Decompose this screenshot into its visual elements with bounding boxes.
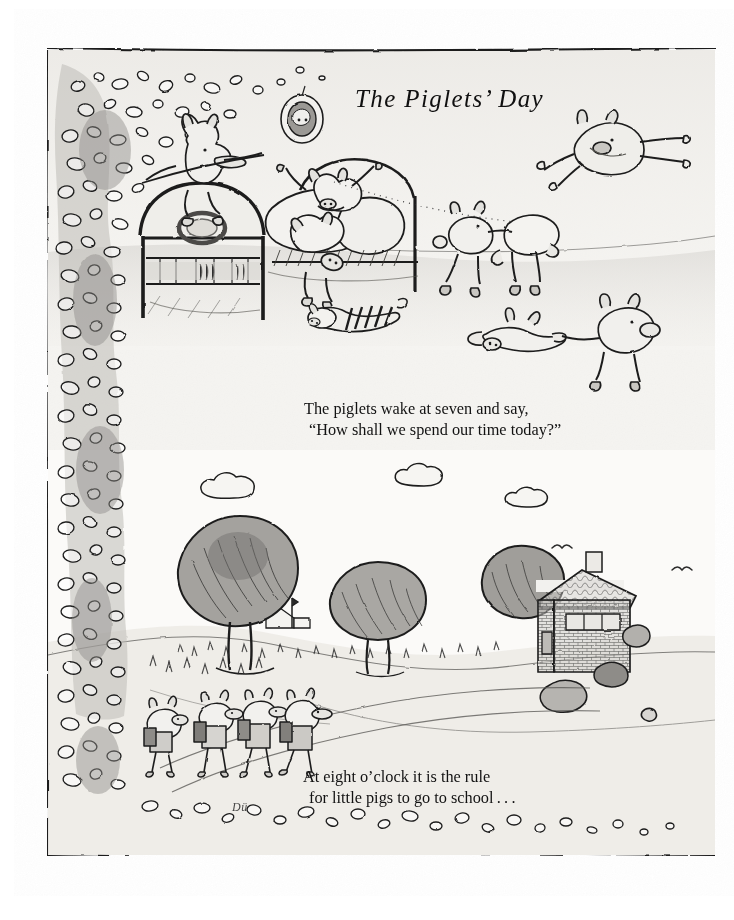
artist-signature: Dü xyxy=(232,800,248,815)
caption-line: “How shall we spend our time today?” xyxy=(304,419,561,440)
page-title: The Piglets’ Day xyxy=(355,86,615,111)
caption-line: At eight o’clock it is the rule xyxy=(303,766,516,787)
illustration-page: The Piglets’ Day The piglets wake at sev… xyxy=(0,0,734,920)
caption-wake-at-seven: The piglets wake at seven and say, “How … xyxy=(304,398,561,440)
caption-line: The piglets wake at seven and say, xyxy=(304,398,561,419)
caption-line: for little pigs to go to school . . . xyxy=(303,787,516,808)
caption-eight-oclock: At eight o’clock it is the rule for litt… xyxy=(303,766,516,808)
